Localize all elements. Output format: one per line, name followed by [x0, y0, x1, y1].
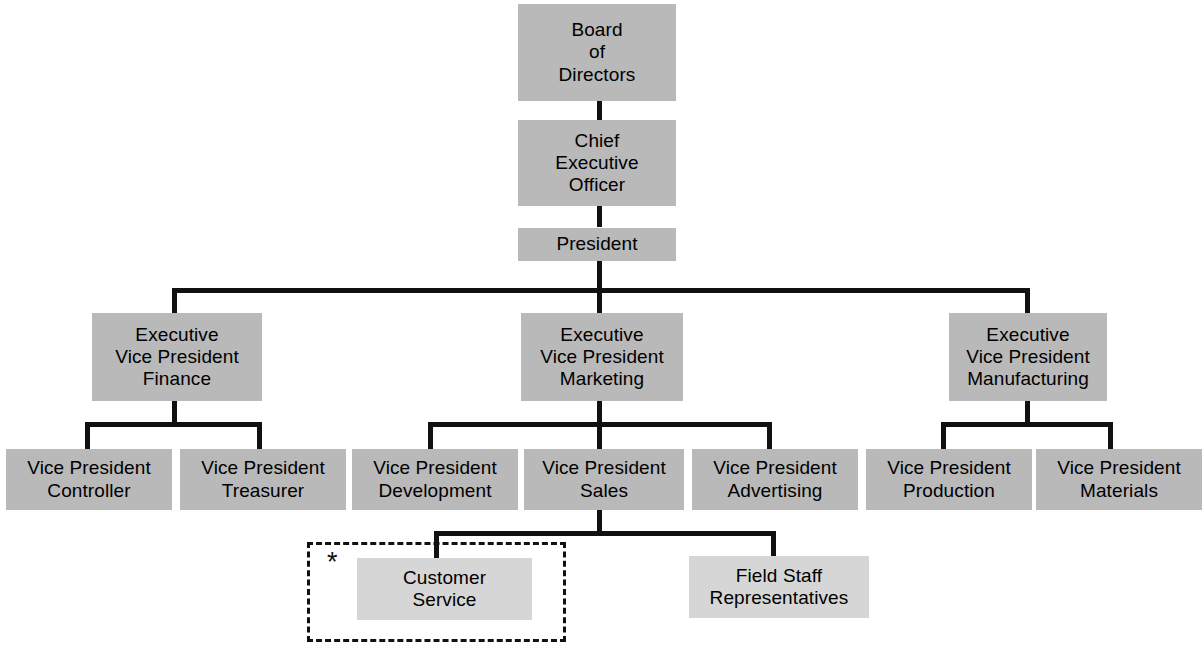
- connector-ceo-to-president: [597, 205, 602, 227]
- connector-finance-to-controller: [85, 422, 90, 450]
- connector-marketing-to-sales: [597, 422, 602, 450]
- node-line: of: [589, 41, 605, 63]
- node-field-staff-representatives[interactable]: Field Staff Representatives: [689, 556, 869, 618]
- node-line: Executive: [135, 324, 218, 346]
- connector-marketing-to-advertising: [767, 422, 772, 450]
- node-line: Officer: [569, 174, 625, 196]
- asterisk-annotation: *: [327, 549, 338, 576]
- connector-bus-to-evp-finance: [172, 288, 177, 314]
- connector-evp-manufacturing-stem: [1025, 400, 1030, 424]
- node-line: Vice President: [1057, 457, 1181, 479]
- node-line: Development: [378, 480, 491, 502]
- node-line: Manufacturing: [967, 368, 1089, 390]
- node-line: Marketing: [560, 368, 644, 390]
- node-vp-advertising[interactable]: Vice President Advertising: [692, 449, 858, 510]
- node-line: Vice President: [373, 457, 497, 479]
- node-evp-marketing[interactable]: Executive Vice President Marketing: [521, 313, 683, 401]
- node-line: Controller: [47, 480, 130, 502]
- node-line: Vice President: [201, 457, 325, 479]
- node-line: Executive: [986, 324, 1069, 346]
- connector-manufacturing-to-materials: [1108, 422, 1113, 450]
- connector-bus-to-evp-manufacturing: [1025, 288, 1030, 314]
- org-chart: * Board of Directors Chief Executive Off…: [0, 0, 1203, 658]
- node-line: Vice President: [887, 457, 1011, 479]
- connector-finance-bus: [85, 422, 262, 427]
- node-line: Executive: [555, 152, 638, 174]
- node-line: Representatives: [710, 587, 849, 609]
- node-line: Sales: [580, 480, 628, 502]
- node-president[interactable]: President: [518, 228, 676, 261]
- node-evp-manufacturing[interactable]: Executive Vice President Manufacturing: [949, 313, 1107, 401]
- connector-sales-to-field-staff: [771, 531, 776, 558]
- node-line: Materials: [1080, 480, 1158, 502]
- node-line: Chief: [575, 130, 620, 152]
- node-line: Field Staff: [736, 565, 822, 587]
- node-vp-controller[interactable]: Vice President Controller: [6, 449, 172, 510]
- node-line: Finance: [143, 368, 211, 390]
- node-line: Vice President: [966, 346, 1090, 368]
- node-vp-treasurer[interactable]: Vice President Treasurer: [180, 449, 346, 510]
- node-evp-finance[interactable]: Executive Vice President Finance: [92, 313, 262, 401]
- node-vp-development[interactable]: Vice President Development: [352, 449, 518, 510]
- node-board-of-directors[interactable]: Board of Directors: [518, 4, 676, 101]
- connector-sales-bus: [434, 531, 776, 536]
- connector-president-to-bus: [597, 260, 602, 290]
- connector-evp-finance-stem: [172, 400, 177, 424]
- node-line: Vice President: [542, 457, 666, 479]
- connector-bus-to-evp-marketing: [597, 288, 602, 314]
- customer-service-highlight-box: [307, 542, 566, 642]
- node-line: Board: [571, 19, 622, 41]
- connector-manufacturing-bus: [941, 422, 1113, 427]
- node-line: Vice President: [115, 346, 239, 368]
- node-line: Directors: [559, 64, 636, 86]
- node-line: Vice President: [27, 457, 151, 479]
- node-vp-production[interactable]: Vice President Production: [866, 449, 1032, 510]
- node-line: President: [556, 233, 637, 255]
- node-vp-materials[interactable]: Vice President Materials: [1036, 449, 1202, 510]
- node-line: Advertising: [727, 480, 822, 502]
- node-line: Production: [903, 480, 995, 502]
- connector-finance-to-treasurer: [257, 422, 262, 450]
- connector-board-to-ceo: [597, 100, 602, 120]
- node-line: Vice President: [540, 346, 664, 368]
- node-line: Treasurer: [222, 480, 305, 502]
- node-line: Vice President: [713, 457, 837, 479]
- node-chief-executive-officer[interactable]: Chief Executive Officer: [518, 120, 676, 206]
- connector-manufacturing-to-production: [941, 422, 946, 450]
- node-vp-sales[interactable]: Vice President Sales: [524, 449, 684, 510]
- connector-marketing-to-development: [428, 422, 433, 450]
- connector-evp-marketing-stem: [597, 400, 602, 424]
- node-line: Executive: [560, 324, 643, 346]
